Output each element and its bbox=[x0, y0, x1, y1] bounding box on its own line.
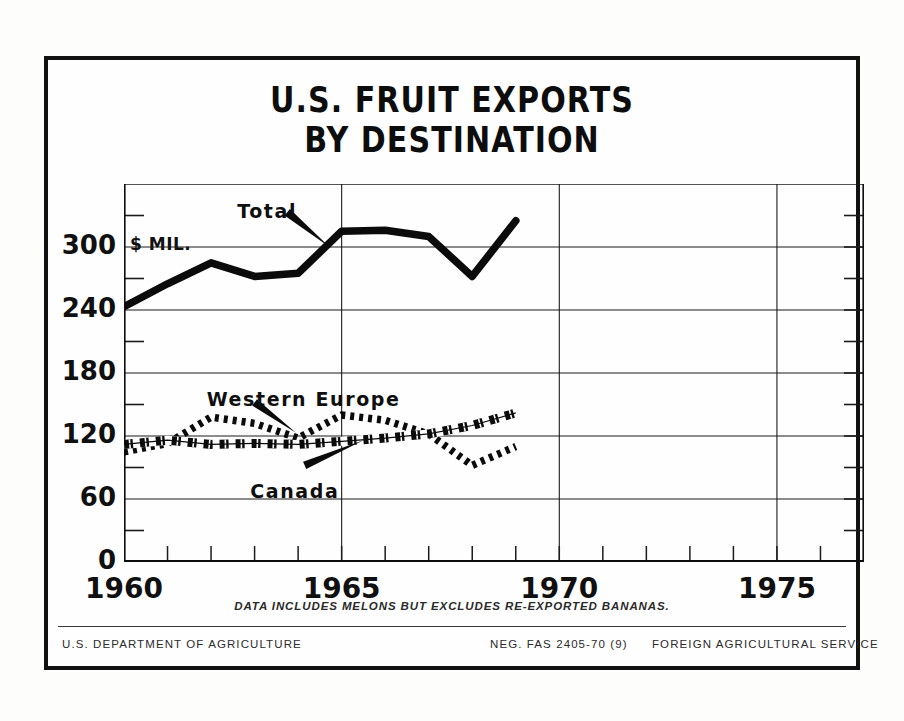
page-title-line-2: BY DESTINATION bbox=[105, 120, 800, 160]
series-label-western-europe: Western Europe bbox=[207, 388, 401, 410]
series-line-total bbox=[124, 221, 516, 307]
y-tick-label: 180 bbox=[52, 356, 116, 386]
y-tick-label: 60 bbox=[52, 482, 116, 512]
data-series-layer bbox=[124, 221, 516, 466]
chart-footnote: DATA INCLUDES MELONS BUT EXCLUDES RE-EXP… bbox=[48, 600, 856, 612]
gridlines bbox=[124, 184, 864, 562]
title-block: U.S. FRUIT EXPORTS BY DESTINATION bbox=[48, 80, 856, 160]
series-label-canada: Canada bbox=[250, 480, 339, 502]
y-tick-label: 120 bbox=[52, 419, 116, 449]
footer-agency: U.S. DEPARTMENT OF AGRICULTURE bbox=[62, 638, 302, 650]
y-tick-label: 0 bbox=[52, 545, 116, 575]
poster-frame: U.S. FRUIT EXPORTS BY DESTINATION $ MIL. bbox=[44, 56, 860, 670]
page-title-line-1: U.S. FRUIT EXPORTS bbox=[105, 80, 800, 120]
chart-canvas bbox=[124, 184, 864, 562]
y-tick-label: 300 bbox=[52, 230, 116, 260]
footer-divider bbox=[58, 626, 846, 627]
footer-service: FOREIGN AGRICULTURAL SERVICE bbox=[652, 638, 879, 650]
chart-poster: U.S. FRUIT EXPORTS BY DESTINATION $ MIL. bbox=[0, 0, 904, 721]
footer-negative-number: NEG. FAS 2405-70 (9) bbox=[490, 638, 628, 650]
series-label-total: Total bbox=[237, 200, 297, 222]
y-tick-label: 240 bbox=[52, 293, 116, 323]
plot-area bbox=[124, 184, 864, 562]
